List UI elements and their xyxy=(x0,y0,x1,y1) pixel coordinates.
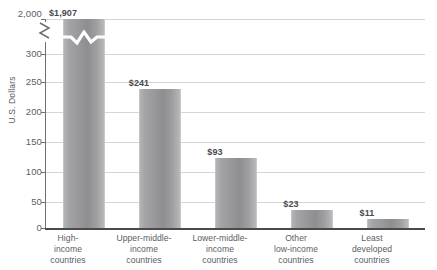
data-label-least-developed-countries: $11 xyxy=(337,208,397,218)
data-label-lower-middle-income-countries: $93 xyxy=(185,147,245,157)
category-label-line: countries xyxy=(104,255,184,266)
y-tick-label: 100 xyxy=(8,167,42,177)
category-label-line: countries xyxy=(256,255,336,266)
x-axis-line xyxy=(45,228,425,230)
bar-chart: U.S. Dollars 2,000 300 250 200 150 100 5… xyxy=(0,0,437,270)
category-label-line: Least xyxy=(332,233,412,244)
category-label-line: developed xyxy=(332,244,412,255)
category-label-line: income xyxy=(28,244,108,255)
y-axis-tick-labels: 2,000 300 250 200 150 100 50 0 xyxy=(4,0,42,240)
bar-high-income-countries xyxy=(63,19,105,228)
bar-upper-middle-income-countries xyxy=(139,89,181,228)
y-tick-label: 250 xyxy=(8,77,42,87)
y-tick-label: 150 xyxy=(8,137,42,147)
y-axis-tick xyxy=(41,112,46,113)
category-label-line: income xyxy=(104,244,184,255)
category-label-upper-middle-income-countries: Upper-middle- income countries xyxy=(104,233,184,267)
y-axis-tick xyxy=(41,202,46,203)
y-axis-tick xyxy=(41,142,46,143)
bar-least-developed-countries xyxy=(367,219,409,228)
data-label-other-low-income-countries: $23 xyxy=(261,199,321,209)
category-label-line: low-income xyxy=(256,244,336,255)
y-tick-label: 50 xyxy=(8,197,42,207)
bar-other-low-income-countries xyxy=(291,210,333,228)
category-label-line: Other xyxy=(256,233,336,244)
bar-axis-break-mark xyxy=(58,30,110,46)
y-axis-tick xyxy=(41,19,46,20)
category-label-least-developed-countries: Least developed countries xyxy=(332,233,412,267)
y-tick-label: 0 xyxy=(8,223,42,233)
data-label-high-income-countries: $1,907 xyxy=(33,8,93,18)
y-axis-tick xyxy=(41,54,46,55)
category-label-line: countries xyxy=(180,255,260,266)
category-label-line: countries xyxy=(332,255,412,266)
category-label-line: income xyxy=(180,244,260,255)
category-label-high-income-countries: High- income countries xyxy=(28,233,108,267)
y-axis-line xyxy=(45,19,46,228)
y-axis-tick xyxy=(41,172,46,173)
plot-area xyxy=(46,19,425,228)
y-tick-label: 300 xyxy=(8,49,42,59)
category-label-line: Lower-middle- xyxy=(180,233,260,244)
y-tick-label: 200 xyxy=(8,107,42,117)
category-label-line: countries xyxy=(28,255,108,266)
category-label-other-low-income-countries: Other low-income countries xyxy=(256,233,336,267)
category-label-lower-middle-income-countries: Lower-middle- income countries xyxy=(180,233,260,267)
category-label-line: Upper-middle- xyxy=(104,233,184,244)
bar-lower-middle-income-countries xyxy=(215,158,257,228)
y-axis-tick xyxy=(41,82,46,83)
y-axis-break-icon xyxy=(38,22,54,42)
category-label-line: High- xyxy=(28,233,108,244)
data-label-upper-middle-income-countries: $241 xyxy=(109,78,169,88)
bars-layer xyxy=(46,19,425,228)
